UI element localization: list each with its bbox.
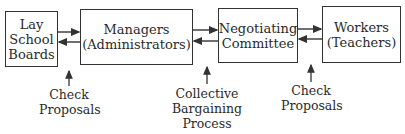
annotation-line: Proposals (281, 98, 341, 113)
annotation-line: Check (281, 83, 341, 98)
node-managers: Managers (Administrators) (80, 9, 193, 65)
annotation-line: Collective (167, 86, 247, 101)
annotation-line: Proposals (39, 102, 99, 117)
node-negotiating-committee: Negotiating Committee (218, 8, 298, 63)
node-line: Managers (103, 22, 169, 37)
annotation-check-proposals-right: Check Proposals (281, 83, 341, 113)
node-line: Workers (334, 20, 389, 35)
node-line: Lay (20, 17, 44, 32)
annotation-check-proposals-left: Check Proposals (39, 87, 99, 117)
node-line: Negotiating (219, 21, 297, 36)
node-line: School (9, 32, 53, 47)
node-line: (Administrators) (82, 37, 191, 52)
node-line: (Teachers) (327, 35, 396, 50)
node-line: Boards (8, 47, 54, 62)
annotation-line: Process (167, 116, 247, 131)
node-line: Committee (222, 36, 294, 51)
node-lay-school-boards: Lay School Boards (5, 11, 58, 67)
annotation-line: Check (39, 87, 99, 102)
node-workers: Workers (Teachers) (322, 6, 401, 63)
annotation-line: Bargaining (167, 101, 247, 116)
annotation-collective-bargaining: Collective Bargaining Process (167, 86, 247, 131)
